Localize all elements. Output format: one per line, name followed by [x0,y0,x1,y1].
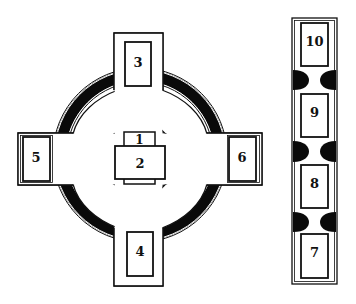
card-label-2: 2 [135,156,144,171]
celtic-cross-diagram: 3 4 5 6 1 2 [0,0,356,304]
card-label-5: 5 [31,150,40,165]
card-position-8[interactable]: 8 [301,165,328,208]
card-position-5[interactable]: 5 [23,137,50,181]
card-position-3[interactable]: 3 [125,42,151,86]
card-position-4[interactable]: 4 [127,232,153,276]
card-label-10: 10 [305,34,323,49]
card-position-10[interactable]: 10 [301,23,328,66]
card-label-1: 1 [135,133,143,147]
card-position-7[interactable]: 7 [301,234,328,278]
card-position-2[interactable]: 2 [115,146,165,179]
card-label-7: 7 [310,245,319,260]
card-label-4: 4 [135,244,144,259]
card-label-6: 6 [237,150,246,165]
card-label-3: 3 [133,55,142,70]
card-label-8: 8 [310,176,319,191]
card-position-6[interactable]: 6 [229,137,256,181]
card-position-9[interactable]: 9 [301,94,328,137]
card-label-9: 9 [310,105,319,120]
